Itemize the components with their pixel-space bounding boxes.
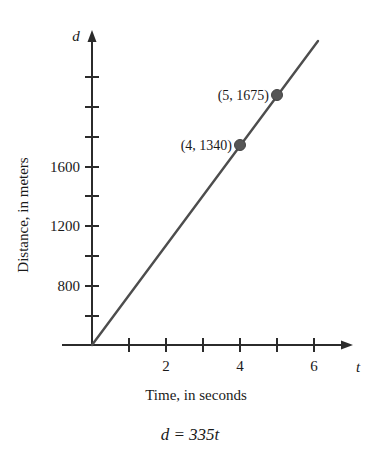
x-tick-label-4: 4 <box>236 358 244 374</box>
data-series-line <box>92 41 318 345</box>
y-axis-variable-label: d <box>72 28 80 44</box>
y-axis-title: Distance, in meters <box>15 157 31 273</box>
y-tick-label-400: 800 <box>58 278 81 294</box>
data-point-5-1675[interactable] <box>272 90 283 101</box>
y-tick-label-800: 1200 <box>50 218 80 234</box>
x-axis-arrow-icon <box>341 341 353 350</box>
y-tick-label-1200: 1600 <box>50 159 80 175</box>
y-axis-arrow-icon <box>88 30 97 42</box>
annotation-point-5-1675: (5, 1675) <box>218 88 270 104</box>
coordinate-plot: 800 1200 1600 2 4 6 d t (4, 1340) (5, 16… <box>0 0 380 468</box>
data-point-4-1340[interactable] <box>235 140 246 151</box>
annotation-point-4-1340: (4, 1340) <box>181 138 233 154</box>
equation-caption: d = 335t <box>161 425 221 444</box>
chart-figure: 800 1200 1600 2 4 6 d t (4, 1340) (5, 16… <box>0 0 380 468</box>
x-axis-variable-label: t <box>356 359 361 375</box>
x-tick-label-2: 2 <box>162 358 170 374</box>
x-axis-title: Time, in seconds <box>145 387 247 403</box>
x-tick-label-6: 6 <box>310 358 318 374</box>
